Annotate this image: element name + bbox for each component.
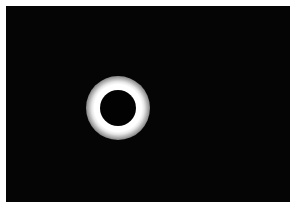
eclipse-photo: Total solar eclipse [6, 6, 290, 202]
moon-disk [100, 90, 136, 126]
